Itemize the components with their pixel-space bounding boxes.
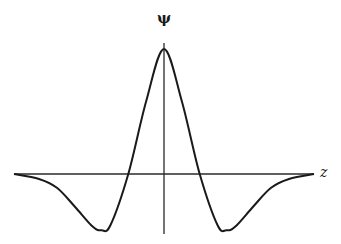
y-axis-label: ψ [157,9,171,27]
x-axis-label: z [320,164,327,180]
wavefunction-plot [0,0,341,244]
